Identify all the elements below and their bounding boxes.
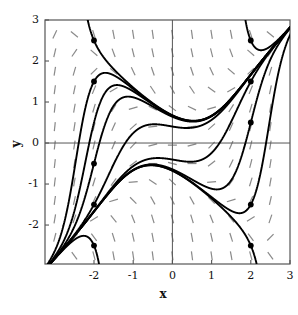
plot-canvas: -2-10123-2-10123 x y bbox=[0, 0, 298, 315]
y-tick-label: 1 bbox=[32, 95, 39, 108]
x-tick-label: 3 bbox=[287, 269, 294, 282]
y-tick-label: 0 bbox=[32, 136, 39, 149]
y-tick-label: -2 bbox=[28, 218, 39, 231]
y-tick-label: 3 bbox=[32, 13, 39, 26]
x-tick-label: 2 bbox=[247, 269, 254, 282]
y-tick-label: -1 bbox=[28, 177, 39, 190]
x-tick-label: -1 bbox=[128, 269, 139, 282]
x-tick-label: 1 bbox=[208, 269, 215, 282]
x-axis-title: x bbox=[159, 287, 167, 301]
slope-field-figure: -2-10123-2-10123 x y bbox=[0, 0, 298, 315]
x-tick-label: -2 bbox=[89, 269, 100, 282]
y-axis-title: y bbox=[9, 139, 23, 148]
y-tick-label: 2 bbox=[32, 54, 39, 67]
x-tick-label: 0 bbox=[169, 269, 176, 282]
slope-field-marks bbox=[52, 30, 274, 260]
solution-curves bbox=[43, 8, 292, 276]
